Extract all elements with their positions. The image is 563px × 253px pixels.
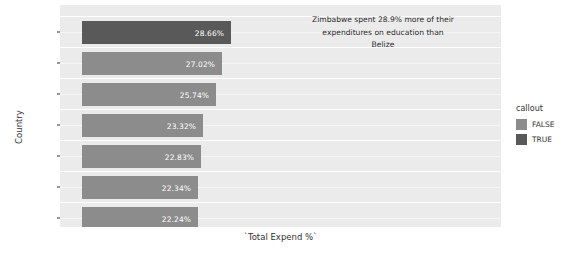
legend-label-true: TRUE [532,135,552,144]
gridline-major [60,202,501,203]
x-axis-title: `Total Expend %` [60,232,501,242]
legend-swatch-true-icon [516,134,527,145]
legend-swatch-false-icon [516,119,527,130]
legend-label-false: FALSE [532,120,554,129]
bar-value-label-costa-rica: 22.83% [165,152,194,161]
bar-ethiopia[interactable]: 27.02% [82,52,222,75]
gridline-major [60,78,501,79]
bar-value-label-senegal: 25.74% [180,90,209,99]
y-axis-title: Country [14,110,24,144]
bar-uzbekistan[interactable]: 23.32% [82,114,203,137]
bar-belize[interactable]: 22.24% [82,207,198,227]
bar-value-label-zimbabwe: 28.66% [195,28,224,37]
bar-value-label-uzbekistan: 23.32% [167,121,196,130]
gridline-major [60,140,501,141]
bar-senegal[interactable]: 25.74% [82,83,216,106]
gridline-major [60,171,501,172]
bar-benin[interactable]: 22.34% [82,176,198,199]
bar-value-label-ethiopia: 27.02% [186,59,215,68]
chart-legend: callout FALSE TRUE [516,104,561,147]
gridline-major [60,109,501,110]
bar-value-label-belize: 22.24% [162,214,191,223]
legend-item-true[interactable]: TRUE [516,132,561,147]
bar-zimbabwe[interactable]: 28.66% [82,21,231,44]
legend-title: callout [516,104,561,113]
bar-costa-rica[interactable]: 22.83% [82,145,201,168]
bar-value-label-benin: 22.34% [162,183,191,192]
legend-item-false[interactable]: FALSE [516,117,561,132]
chart-annotation-text: Zimbabwe spent 28.9% more of their expen… [294,14,472,52]
chart-plot-area: 28.66% 27.02% 25.74% 23.32% 22.83% 22.34… [60,5,501,227]
